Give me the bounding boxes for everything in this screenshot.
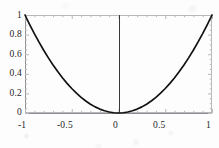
y-tick-label: 0.2 [0, 88, 22, 98]
y-tick-label: 0.4 [0, 68, 22, 78]
x-tick-label: 0.5 [153, 120, 165, 130]
parabola-plot [0, 0, 219, 148]
y-tick-label: 0.6 [0, 49, 22, 59]
x-tick-label: -0.5 [57, 120, 73, 130]
x-tick-label: 0 [113, 120, 118, 130]
x-tick-label: -1 [18, 120, 26, 130]
curve-series [25, 15, 212, 113]
y-tick-label: 0.8 [0, 29, 22, 39]
figure-container: 10.80.60.40.20 -1-0.500.51 [0, 0, 219, 148]
y-tick-label: 0 [12, 107, 22, 117]
y-tick-label: 1 [12, 10, 22, 20]
x-tick-label: 1 [206, 120, 211, 130]
